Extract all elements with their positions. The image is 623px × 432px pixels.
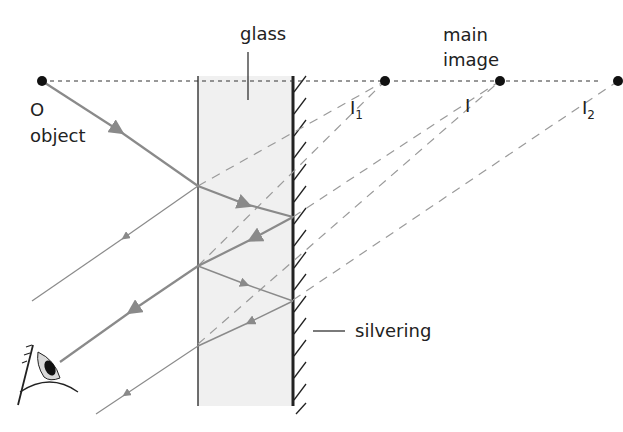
main-image-i-label: I bbox=[465, 95, 470, 116]
object-letter-label: O bbox=[30, 99, 44, 120]
main-image-label-2: image bbox=[443, 49, 499, 70]
image-1-label: I1 bbox=[350, 97, 363, 122]
main-image-point bbox=[495, 76, 505, 86]
object-word-label: object bbox=[30, 125, 85, 146]
glass-slab bbox=[198, 76, 293, 406]
eye-icon bbox=[18, 345, 78, 405]
thick-mirror-diagram: glass main image O object I1 I I2 silver… bbox=[0, 0, 623, 432]
image-1-point bbox=[380, 76, 390, 86]
diagram-stage: glass main image O object I1 I I2 silver… bbox=[0, 0, 623, 432]
image-2-point bbox=[613, 76, 623, 86]
main-image-label-1: main bbox=[443, 24, 488, 45]
silvering-hatch bbox=[294, 76, 306, 414]
object-point bbox=[37, 76, 47, 86]
silvering-label: silvering bbox=[355, 320, 431, 341]
glass-label: glass bbox=[240, 23, 286, 44]
